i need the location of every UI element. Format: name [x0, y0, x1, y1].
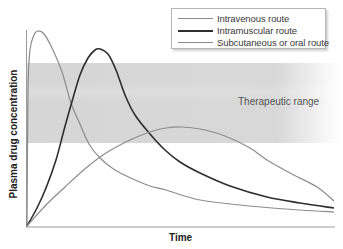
x-axis-label: Time: [169, 232, 192, 243]
legend-label: Intravenous route: [217, 13, 289, 24]
legend-swatch-intravenous: [178, 18, 213, 19]
legend-swatch-intramuscular: [178, 30, 213, 32]
legend: Intravenous route Intramuscular route Su…: [171, 8, 326, 49]
legend-swatch-subcutaneous-oral: [178, 42, 213, 43]
legend-label: Intramuscular route: [217, 25, 297, 36]
therapeutic-range-label: Therapeutic range: [238, 96, 319, 107]
legend-item-subcutaneous-oral: Subcutaneous or oral route: [178, 36, 329, 49]
legend-label: Subcutaneous or oral route: [217, 37, 329, 48]
y-axis-label: Plasma drug concentration: [8, 70, 19, 199]
